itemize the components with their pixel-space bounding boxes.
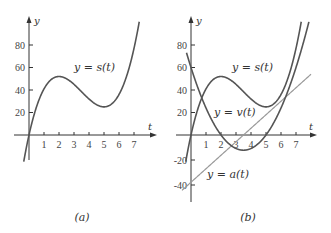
svg-text:4: 4 [87, 139, 92, 150]
svg-text:1: 1 [42, 139, 47, 150]
svg-text:5: 5 [102, 139, 107, 150]
t-axis-label: t [148, 121, 153, 132]
y-axis-label: y [33, 15, 40, 26]
svg-text:20: 20 [177, 107, 187, 118]
y-ticks: 80 60 40 20 -20 -40 [174, 40, 195, 191]
y-ticks: 20 40 60 80 [15, 40, 33, 119]
y-axis-arrow-icon [189, 16, 194, 23]
svg-text:6: 6 [279, 139, 284, 150]
svg-text:6: 6 [117, 139, 122, 150]
svg-text:80: 80 [15, 40, 25, 51]
y-axis-arrow-icon [27, 16, 32, 23]
svg-text:60: 60 [15, 62, 25, 73]
svg-text:2: 2 [57, 139, 62, 150]
t-axis-arrow-icon [310, 133, 317, 138]
svg-text:5: 5 [264, 139, 269, 150]
panel-a: y t 1 2 3 4 5 6 7 20 40 60 80 y = s(t) (… [14, 15, 157, 224]
v-curve-label: y = v(t) [213, 106, 256, 119]
t-axis-arrow-icon [150, 133, 157, 138]
svg-text:-40: -40 [174, 180, 187, 191]
svg-text:7: 7 [132, 139, 137, 150]
svg-text:40: 40 [177, 85, 187, 96]
svg-text:7: 7 [294, 139, 299, 150]
panel-b: y t 1 2 3 4 5 6 7 80 60 40 20 -20 -40 [174, 15, 317, 224]
svg-text:40: 40 [15, 85, 25, 96]
a-line-label: y = a(t) [206, 168, 249, 181]
svg-text:-20: -20 [174, 155, 187, 166]
panel-a-caption: (a) [74, 211, 89, 224]
svg-text:60: 60 [177, 62, 187, 73]
svg-text:1: 1 [204, 139, 209, 150]
t-axis-label: t [309, 121, 314, 132]
s-curve-label: y = s(t) [231, 61, 273, 74]
panel-b-caption: (b) [240, 211, 256, 224]
svg-text:3: 3 [72, 139, 77, 150]
svg-text:20: 20 [15, 107, 25, 118]
y-axis-label: y [195, 15, 202, 26]
figure: y t 1 2 3 4 5 6 7 20 40 60 80 y = s(t) (… [0, 0, 331, 233]
svg-text:2: 2 [219, 139, 224, 150]
svg-text:80: 80 [177, 40, 187, 51]
s-curve-label: y = s(t) [73, 61, 115, 74]
